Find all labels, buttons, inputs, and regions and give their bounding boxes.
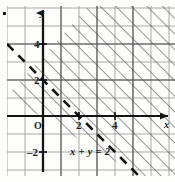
x-tick-label-2: 2 xyxy=(76,120,82,131)
y-tick-label-4: 4 xyxy=(34,39,40,50)
origin-label: O xyxy=(34,121,42,131)
y-tick-label-2: 2 xyxy=(34,75,40,86)
y-tick-label-neg2: –2 xyxy=(27,147,38,158)
y-axis-label: y xyxy=(40,8,44,18)
graph-screenshot: y x O 4 2 –2 2 4 x + y = 2 xyxy=(0,0,175,182)
boundary-equation-label: x + y = 2 xyxy=(70,147,110,158)
x-tick-label-4: 4 xyxy=(112,120,118,131)
x-axis-label: x xyxy=(164,120,169,130)
